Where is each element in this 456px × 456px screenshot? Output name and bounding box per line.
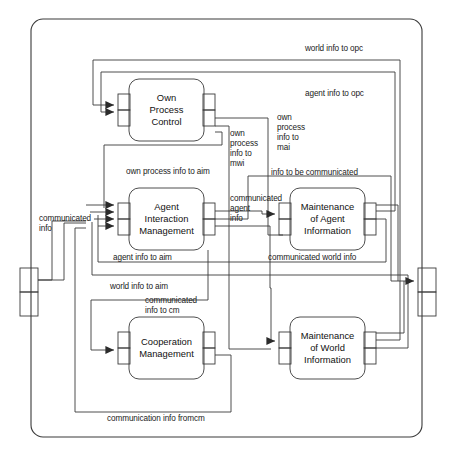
process-label-mai: Maintenance of Agent Information — [288, 201, 367, 237]
flow-mai-to-external-out — [376, 205, 398, 281]
process-label-aim: Agent Interaction Management — [129, 201, 204, 237]
flow-label-communicated-agent-info: communicated agent info — [230, 194, 282, 224]
flow-label-world-info-to-opc: world info to opc — [305, 44, 363, 54]
flow-label-info-to-be-communicated: info to be communicated — [271, 168, 358, 178]
flow-label-own-process-info-to-aim: own process info to aim — [126, 167, 210, 177]
flow-label-agent-info-to-aim: agent info to aim — [113, 253, 172, 263]
process-label-opc: Own Process Control — [129, 92, 204, 128]
flow-label-own-process-info-to-mai: own process info to mai — [277, 113, 305, 153]
flow-label-communication-info-fromcm: communication info fromcm — [107, 414, 205, 424]
flow-label-world-info-to-aim: world info to aim — [110, 282, 168, 292]
external-output-port — [418, 268, 436, 316]
process-label-cm: Cooperation Management — [127, 336, 206, 360]
flow-label-communicated-world-info: communicated world info — [268, 253, 356, 263]
external-input-port — [20, 268, 38, 316]
flow-label-communicated-info: communicated info — [39, 214, 91, 234]
process-label-mwi: Maintenance of World Information — [288, 330, 367, 366]
flow-label-communicated-info-to-cm: communicated info to cm — [145, 296, 197, 316]
flow-label-own-process-info-to-mwi: own process info to mwi — [230, 129, 258, 169]
flow-communicated-world-info — [215, 226, 275, 341]
flow-label-agent-info-to-opc: agent info to opc — [305, 89, 364, 99]
diagram-canvas: Own Process Control Agent Interaction Ma… — [0, 0, 456, 456]
